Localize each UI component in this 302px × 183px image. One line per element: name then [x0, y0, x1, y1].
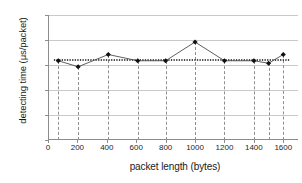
data-point-marker	[163, 58, 168, 63]
y-axis-title: detecting time (μs/packet)	[17, 1, 28, 141]
chart-figure: detecting time (μs/packet) 131415161718 …	[0, 0, 302, 183]
x-axis-title: packet length (bytes)	[48, 161, 302, 172]
data-point-marker	[266, 61, 271, 66]
x-axis-line	[48, 139, 298, 140]
plot-area: 131415161718 020040060080010001200140016…	[48, 15, 298, 140]
series-line	[58, 42, 283, 67]
data-series-layer	[48, 15, 298, 140]
data-point-marker	[222, 58, 227, 63]
data-point-marker	[106, 52, 111, 57]
x-tick-label: 1600	[266, 143, 300, 152]
data-point-marker	[76, 64, 81, 69]
y-axis-line	[48, 15, 49, 140]
data-point-marker	[281, 52, 286, 57]
data-point-marker	[56, 58, 61, 63]
data-point-marker	[251, 58, 256, 63]
data-point-marker	[135, 58, 140, 63]
data-point-marker	[192, 39, 197, 44]
